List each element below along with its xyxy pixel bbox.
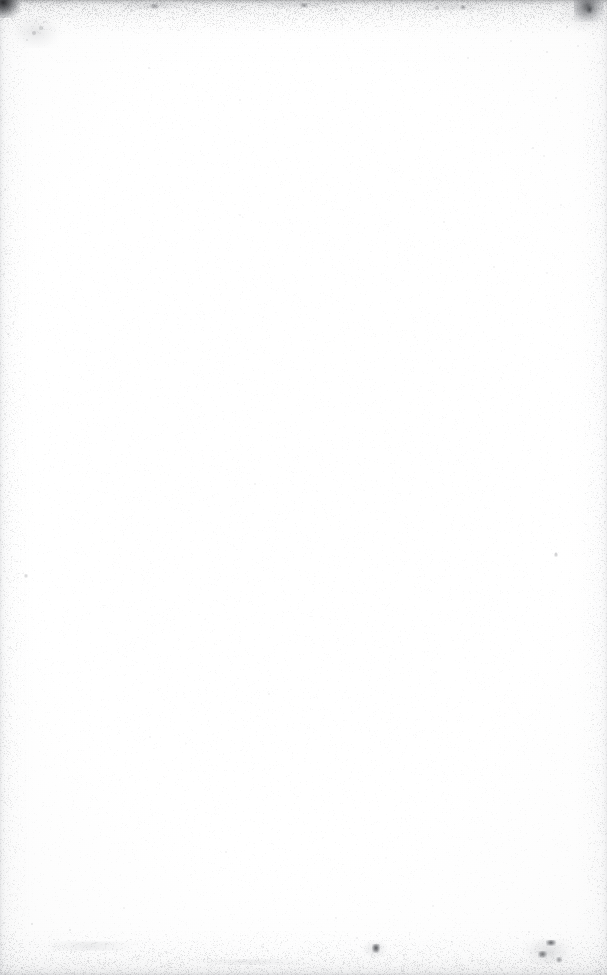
dust-speck [510, 40, 512, 42]
top-band-fleck-a [460, 5, 466, 10]
dust-speck [335, 8, 338, 11]
right-edge-shadow [575, 0, 607, 975]
dust-speck [435, 6, 438, 9]
scanned-page [0, 0, 607, 975]
top-left-corner-blot [0, 0, 20, 18]
bottom-center-ink-blot [372, 944, 380, 953]
bottom-right-ink-cluster-c [556, 957, 562, 963]
top-mid-ink-fleck [300, 3, 308, 8]
dust-speck [239, 99, 241, 101]
top-edge-shadow [0, 0, 607, 64]
left-mid-dust-speck [24, 574, 28, 578]
bottom-edge-shadow [0, 917, 607, 975]
dust-speck [335, 917, 337, 919]
dust-speck [560, 204, 562, 206]
dust-speck [432, 905, 434, 907]
left-edge-shadow [0, 0, 34, 975]
dust-speck [32, 31, 36, 35]
bottom-right-ink-cluster-b [538, 951, 547, 958]
dust-speck [39, 26, 42, 29]
dust-speck [546, 272, 548, 274]
top-left-ink-fleck [150, 4, 159, 9]
bottom-right-ink-cluster-a [546, 940, 556, 946]
dust-speck [543, 155, 545, 157]
top-right-ink-fleck [586, 6, 593, 14]
dust-speck [123, 907, 125, 909]
dust-speck [130, 9, 133, 12]
dust-speck [149, 736, 151, 738]
dust-speck [239, 214, 241, 216]
paper-grain-noise [0, 0, 607, 975]
